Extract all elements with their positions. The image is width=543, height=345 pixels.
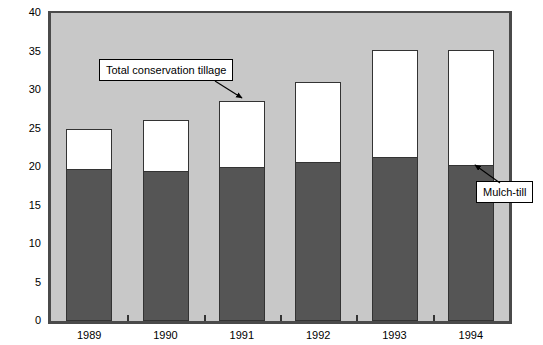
y-tick-label: 15	[15, 200, 41, 211]
y-tick-label: 10	[15, 238, 41, 249]
bar-mulch-till	[66, 169, 112, 321]
x-tick-label: 1989	[59, 329, 119, 341]
bar-group	[295, 13, 341, 321]
y-tick-label: 25	[15, 123, 41, 134]
bar-mulch-till	[295, 162, 341, 321]
bar-group	[448, 13, 494, 321]
x-tick-mark	[280, 315, 282, 321]
y-tick-label: 30	[15, 84, 41, 95]
annotation-total-conservation-tillage: Total conservation tillage	[99, 59, 233, 81]
x-tick-mark	[356, 315, 358, 321]
bar-mulch-till	[372, 157, 418, 321]
x-tick-label: 1994	[441, 329, 501, 341]
y-tick-label: 40	[15, 7, 41, 18]
x-tick-label: 1992	[288, 329, 348, 341]
y-tick-label: 20	[15, 161, 41, 172]
y-tick-label: 35	[15, 46, 41, 57]
bar-chart: U.S. farm land (%) 0510152025303540 1989…	[0, 0, 543, 345]
y-tick-label: 5	[15, 277, 41, 288]
x-tick-label: 1990	[136, 329, 196, 341]
x-tick-mark	[433, 315, 435, 321]
x-tick-mark	[127, 315, 129, 321]
bar-mulch-till	[219, 167, 265, 321]
x-tick-label: 1991	[212, 329, 272, 341]
annotation-mulch-till: Mulch-till	[476, 181, 533, 203]
bar-group	[372, 13, 418, 321]
y-tick-label: 0	[15, 315, 41, 326]
plot-area	[48, 11, 512, 324]
bar-mulch-till	[143, 171, 189, 321]
x-tick-label: 1993	[365, 329, 425, 341]
x-tick-mark	[204, 315, 206, 321]
